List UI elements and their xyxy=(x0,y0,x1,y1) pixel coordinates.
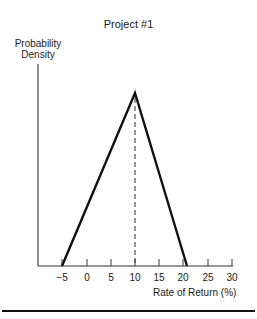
bottom-rule xyxy=(2,310,255,312)
x-tick-label: −5 xyxy=(56,272,68,283)
x-tick-label: 25 xyxy=(202,272,214,283)
x-axis-label: Rate of Return (%) xyxy=(153,287,236,298)
x-tick-label: 15 xyxy=(153,272,165,283)
x-tick-label: 20 xyxy=(177,272,189,283)
chart-plot: −5051015202530 xyxy=(0,0,257,319)
x-tick-label: 5 xyxy=(108,272,114,283)
distribution-line xyxy=(62,93,187,266)
x-axis-ticks: −5051015202530 xyxy=(56,259,238,283)
x-tick-label: 30 xyxy=(226,272,238,283)
x-tick-label: 0 xyxy=(84,272,90,283)
x-tick-label: 10 xyxy=(129,272,141,283)
